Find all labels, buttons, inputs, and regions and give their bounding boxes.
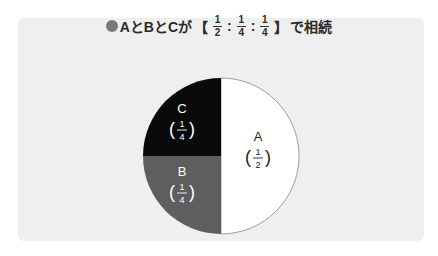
label-c-num: 1 bbox=[179, 119, 184, 129]
label-b-den: 4 bbox=[179, 195, 184, 205]
svg-text:(: ( bbox=[245, 147, 251, 167]
label-b-num: 1 bbox=[179, 182, 184, 192]
pie-chart: C ( ) 1 4 B ( ) 1 4 A ( ) 1 2 bbox=[0, 0, 438, 256]
label-c-den: 4 bbox=[179, 132, 184, 142]
svg-text:): ) bbox=[265, 147, 271, 167]
label-a-num: 1 bbox=[255, 147, 260, 157]
svg-text:): ) bbox=[189, 119, 195, 139]
slice-c bbox=[143, 78, 221, 156]
svg-text:(: ( bbox=[169, 119, 175, 139]
label-a-den: 2 bbox=[255, 160, 260, 170]
svg-text:): ) bbox=[189, 182, 195, 202]
svg-text:(: ( bbox=[169, 182, 175, 202]
label-b: B bbox=[178, 164, 187, 179]
label-c: C bbox=[177, 101, 186, 116]
label-a: A bbox=[254, 129, 263, 144]
